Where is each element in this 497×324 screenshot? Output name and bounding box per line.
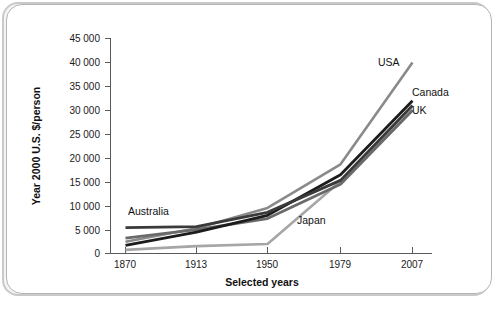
line-chart-svg: Year 2000 U.S. $/person 45 000 40 000 35…	[0, 0, 497, 324]
x-axis-title: Selected years	[225, 276, 299, 288]
series-line-uk	[126, 110, 413, 238]
y-tick-label: 10 000	[69, 201, 100, 212]
y-tick-label: 25 000	[69, 129, 100, 140]
y-tick-label: 20 000	[69, 153, 100, 164]
series-label-uk: UK	[412, 104, 427, 116]
chart-page: Year 2000 U.S. $/person 45 000 40 000 35…	[0, 0, 497, 324]
series-label-usa: USA	[378, 56, 400, 68]
y-axis-title: Year 2000 U.S. $/person	[30, 87, 42, 205]
x-tick-label: 1979	[329, 259, 352, 270]
y-tick-label: 45 000	[69, 33, 100, 44]
x-tick-label: 1913	[185, 259, 208, 270]
y-tick-label: 40 000	[69, 57, 100, 68]
series-label-canada: Canada	[412, 86, 449, 98]
y-tick-label: 0	[94, 248, 100, 259]
x-tick-label: 1950	[256, 259, 279, 270]
y-tick-label: 35 000	[69, 81, 100, 92]
series-label-australia: Australia	[128, 205, 169, 217]
x-tick-label: 1870	[114, 259, 137, 270]
series-label-japan: Japan	[297, 214, 326, 226]
series-line-japan	[126, 110, 413, 250]
y-tick-label: 30 000	[69, 105, 100, 116]
y-tick-label: 15 000	[69, 177, 100, 188]
x-tick-label: 2007	[401, 259, 424, 270]
series-lines-group	[126, 63, 413, 250]
y-tick-label: 5 000	[75, 225, 100, 236]
plot-area-wrapper: Year 2000 U.S. $/person 45 000 40 000 35…	[0, 0, 497, 324]
